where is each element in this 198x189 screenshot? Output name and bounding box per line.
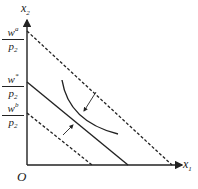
num-sup: a bbox=[15, 25, 19, 33]
num-sup: b bbox=[15, 101, 19, 109]
shift-in-arrow bbox=[84, 92, 96, 111]
intercept-label-wb-num: wb bbox=[2, 100, 24, 116]
budget-line-wb bbox=[27, 113, 92, 165]
num-text: w bbox=[8, 102, 15, 114]
intercept-label-wstar-num: w* bbox=[2, 71, 24, 87]
y-axis-label-sub: 2 bbox=[26, 9, 30, 17]
num-text: w bbox=[8, 26, 15, 38]
den-sub: 2 bbox=[14, 122, 18, 130]
intercept-label-wstar: w* p2 bbox=[2, 71, 24, 103]
intercept-label-wa-den: p2 bbox=[2, 40, 24, 56]
intercept-label-wa: wa p2 bbox=[2, 24, 24, 56]
budget-line-wa bbox=[27, 31, 172, 165]
intercept-label-wa-num: wa bbox=[2, 24, 24, 40]
origin-label: O bbox=[17, 170, 26, 183]
intercept-label-wb: wb p2 bbox=[2, 100, 24, 132]
y-axis-label: x2 bbox=[21, 2, 30, 17]
budget-line-wstar bbox=[27, 82, 128, 165]
den-sub: 2 bbox=[14, 46, 18, 54]
x-axis-label: x1 bbox=[183, 158, 192, 173]
num-text: w bbox=[8, 73, 15, 85]
intercept-label-wb-den: p2 bbox=[2, 116, 24, 132]
num-sup: * bbox=[15, 72, 19, 80]
shift-out-arrow bbox=[63, 125, 73, 135]
x-axis-label-sub: 1 bbox=[188, 165, 192, 173]
budget-line-diagram bbox=[0, 0, 198, 189]
